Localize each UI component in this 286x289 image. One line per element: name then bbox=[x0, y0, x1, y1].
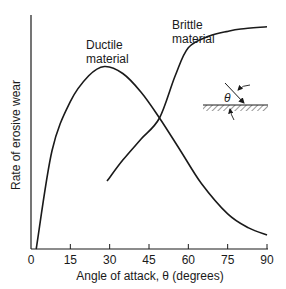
y-axis-label: Rate of erosive wear bbox=[9, 80, 23, 190]
brittle-curve bbox=[107, 27, 267, 181]
x-tick-label: 0 bbox=[28, 253, 35, 267]
ductile-label-line2: material bbox=[86, 52, 129, 66]
x-tick-label: 45 bbox=[142, 253, 156, 267]
ductile-label-line1: Ductile bbox=[86, 38, 123, 52]
x-tick-label: 60 bbox=[182, 253, 196, 267]
x-tick-labels: 0153045607590 bbox=[28, 253, 274, 267]
impingement-angle-diagram: θ bbox=[203, 83, 268, 120]
axes bbox=[31, 15, 268, 249]
brittle-label: Brittle material bbox=[172, 18, 215, 46]
erosive-wear-chart: 0153045607590 Angle of attack, θ (degree… bbox=[0, 0, 286, 289]
x-tick-label: 90 bbox=[260, 253, 274, 267]
x-tick-label: 75 bbox=[221, 253, 235, 267]
ductile-label: Ductile material bbox=[86, 38, 129, 66]
surface-hatching bbox=[203, 105, 268, 111]
x-tick-label: 15 bbox=[64, 253, 78, 267]
x-ticks bbox=[70, 244, 267, 249]
theta-symbol: θ bbox=[224, 91, 231, 105]
brittle-label-line1: Brittle bbox=[172, 18, 203, 32]
brittle-label-line2: material bbox=[172, 32, 215, 46]
x-axis-label: Angle of attack, θ (degrees) bbox=[76, 269, 223, 283]
ductile-curve bbox=[36, 66, 267, 249]
x-tick-label: 30 bbox=[103, 253, 117, 267]
trajectory-pointer-icon bbox=[238, 85, 250, 90]
